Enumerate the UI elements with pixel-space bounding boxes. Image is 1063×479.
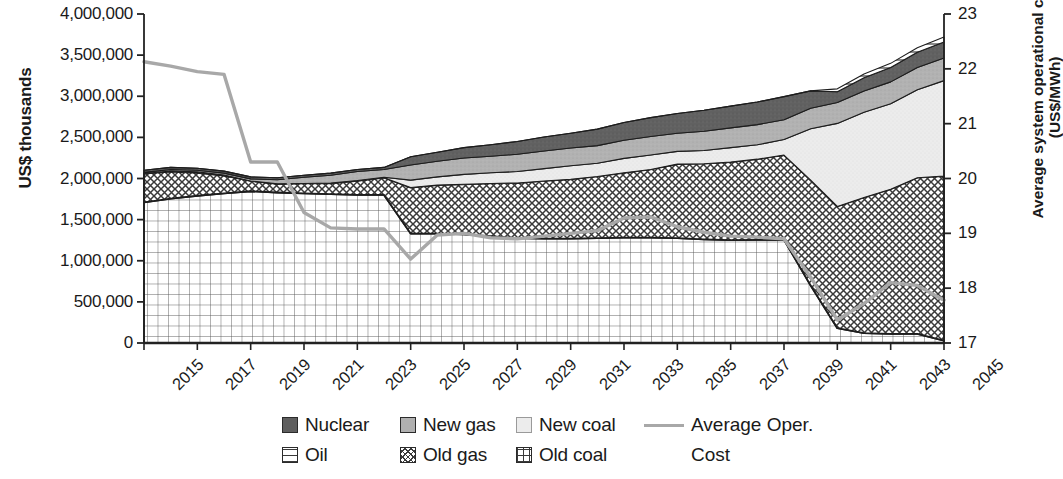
legend-item-old-coal: Old coal (516, 444, 644, 466)
legend-item-new-gas: New gas (400, 414, 516, 436)
legend-label-new-coal: New coal (539, 414, 616, 436)
legend-label-oil: Oil (305, 444, 328, 466)
old-gas-swatch (400, 447, 416, 463)
oil-swatch (282, 447, 298, 463)
legend-label-old-gas: Old gas (423, 444, 487, 466)
legend-label-average-oper-cost: Average Oper. (691, 414, 813, 436)
old-coal-swatch (516, 447, 532, 463)
new-coal-swatch (516, 417, 532, 433)
legend-item-oil: Oil (282, 444, 400, 466)
legend-label-nuclear: Nuclear (305, 414, 369, 436)
legend-item-nuclear: Nuclear (282, 414, 400, 436)
legend-item-new-coal: New coal (516, 414, 644, 436)
legend-label-old-coal: Old coal (539, 444, 607, 466)
legend-item-old-gas: Old gas (400, 444, 516, 466)
new-gas-swatch (400, 417, 416, 433)
legend-label-average-oper-cost-line2: Cost (644, 444, 813, 466)
nuclear-swatch (282, 417, 298, 433)
cost-line-swatch (644, 417, 684, 433)
legend-item-average-oper-cost: Average Oper. (644, 414, 813, 436)
legend-label-new-gas: New gas (423, 414, 496, 436)
